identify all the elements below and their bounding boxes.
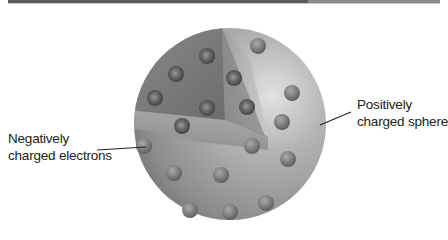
electron-icon [199, 100, 215, 116]
electron-icon [199, 48, 215, 64]
electron-icon [280, 151, 296, 167]
electron-icon [258, 195, 274, 211]
electron-icon [174, 118, 190, 134]
electrons-label: Negatively charged electrons [8, 130, 112, 164]
electron-icon [166, 165, 182, 181]
electron-icon [274, 114, 290, 130]
electron-icon [244, 138, 260, 154]
electron-icon [222, 204, 238, 220]
sphere-label-line1: Positively [357, 96, 448, 113]
sphere-label-line2: charged sphere [357, 113, 448, 130]
electron-icon [284, 85, 300, 101]
electrons-label-line1: Negatively [8, 130, 112, 147]
electron-icon [226, 70, 242, 86]
electron-icon [213, 167, 229, 183]
sphere-label: Positively charged sphere [357, 96, 448, 130]
electron-icon [239, 99, 255, 115]
electrons-label-line2: charged electrons [8, 147, 112, 164]
electron-icon [250, 38, 266, 54]
electron-icon [182, 202, 198, 218]
electron-icon [168, 66, 184, 82]
electron-icon [136, 138, 152, 154]
electron-icon [147, 90, 163, 106]
